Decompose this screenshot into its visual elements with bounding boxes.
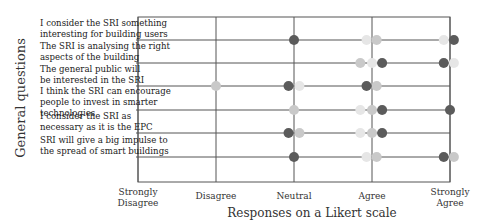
data-point-light (367, 128, 377, 138)
data-point-dark (439, 58, 449, 68)
data-point-light (294, 128, 304, 138)
data-point-dark (449, 35, 459, 45)
data-point-dark (439, 152, 449, 162)
x-tick-label: Disagree (196, 191, 237, 201)
x-tick-label: StronglyDisagree (118, 187, 159, 208)
data-point-verylight (362, 35, 372, 45)
data-point-dark (377, 105, 387, 115)
data-point-light (449, 152, 459, 162)
question-label: SRI will give a big impulse tothe spread… (40, 135, 169, 156)
data-point-verylight (362, 152, 372, 162)
data-point-dark (284, 81, 294, 91)
data-point-light (372, 35, 382, 45)
data-point-verylight (367, 58, 377, 68)
likert-dot-chart: I consider the SRI somethinginteresting … (0, 0, 483, 222)
x-axis-title: Responses on a Likert scale (227, 206, 396, 220)
data-point-verylight (355, 105, 365, 115)
data-point-light (372, 152, 382, 162)
data-point-light (372, 81, 382, 91)
data-point-dark (289, 35, 299, 45)
data-point-dark (362, 81, 372, 91)
data-point-light (211, 81, 221, 91)
data-point-dark (284, 128, 294, 138)
data-point-verylight (355, 128, 365, 138)
question-label: The general public willbe interested in … (40, 64, 144, 85)
question-label: I consider the SRI somethinginteresting … (40, 18, 168, 39)
data-point-dark (445, 105, 455, 115)
data-point-light (289, 105, 299, 115)
x-tick-label: Neutral (276, 191, 311, 201)
data-point-dark (377, 128, 387, 138)
y-axis-title: General questions (13, 38, 28, 158)
question-label: The SRI is analysing the rightaspects of… (40, 41, 170, 62)
x-tick-label: StronglyAgree (430, 187, 470, 208)
data-point-light (367, 105, 377, 115)
data-point-verylight (439, 35, 449, 45)
data-point-verylight (449, 58, 459, 68)
data-point-dark (377, 58, 387, 68)
data-point-light (355, 58, 365, 68)
x-axis-tick-labels: StronglyDisagreeDisagreeNeutralAgreeStro… (118, 187, 471, 208)
x-tick-label: Agree (357, 191, 385, 201)
question-label: I consider the SRI asnecessary as it is … (40, 111, 153, 132)
data-point-verylight (294, 81, 304, 91)
question-labels: I consider the SRI somethinginteresting … (40, 18, 171, 156)
data-points (211, 35, 459, 162)
data-point-dark (289, 152, 299, 162)
